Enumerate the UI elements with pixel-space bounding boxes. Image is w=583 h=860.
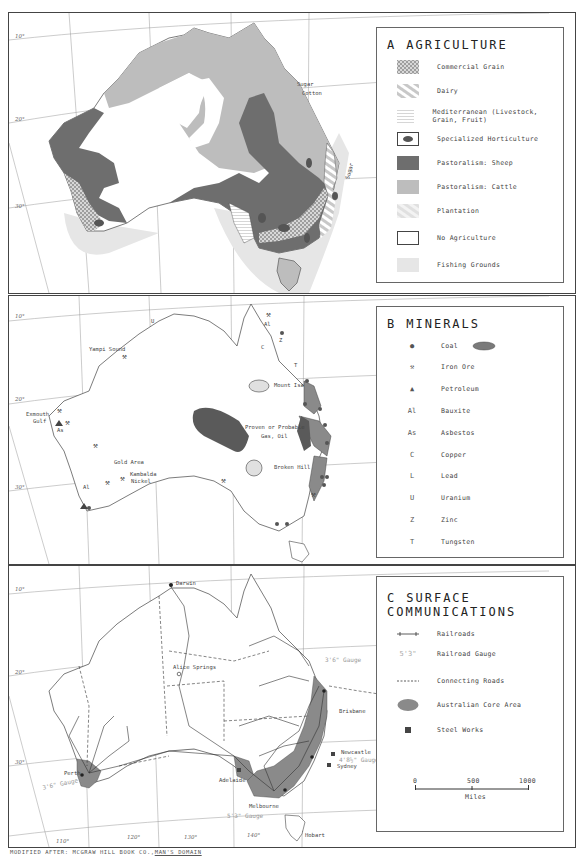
iron-ore-icon: ⚒ (122, 352, 127, 361)
legend-item-bauxite: Al Bauxite (377, 407, 471, 415)
map-label-broken-hill: Broken Hill (274, 464, 310, 470)
iron-ore-icon: ⚒ (65, 418, 70, 427)
horizontal-swatch-icon (397, 109, 414, 123)
city-label-adelaide: Adelaide (219, 777, 246, 783)
scale-bar: 0 500 1000 Miles (415, 777, 531, 807)
legend-item-cattle: Pastoralism: Cattle (377, 180, 517, 194)
legend-item-core-area: Australian Core Area (377, 698, 521, 712)
scale-tick-1000: 1000 (519, 777, 536, 785)
city-label-newcastle: Newcastle (341, 749, 371, 755)
map-label-sugar-north: Sugar (297, 81, 314, 87)
scale-tick-0: 0 (413, 777, 417, 785)
oval-swatch-icon (397, 132, 419, 146)
tungsten-symbol: T (401, 538, 423, 546)
lat-10-label-b: 10° (15, 313, 25, 319)
lat-20-label-b: 20° (15, 396, 25, 402)
map-label-as: As (57, 427, 64, 433)
coal-dot-icon: ● (401, 342, 423, 350)
map-label-z-north: Z (279, 337, 282, 343)
legend-item-copper: C Copper (377, 451, 466, 459)
steel-works-square-icon (397, 723, 419, 737)
legend-item-zinc: Z Zinc (377, 516, 458, 524)
map-label-gold-area: Gold Area (114, 459, 144, 465)
light-gray-swatch-icon (397, 180, 419, 194)
iron-ore-icon: ⚒ (266, 310, 271, 319)
legend-item-coal: ● Coal (377, 341, 496, 351)
map-label-mount-isa: Mount Isa (274, 382, 304, 388)
legend-item-commercial-grain: Commercial Grain (377, 60, 504, 74)
crosshatch-swatch-icon (397, 60, 419, 74)
dashed-line-icon (397, 674, 419, 688)
petroleum-triangle-icon: ▲ (401, 385, 423, 393)
dark-gray-swatch-icon (397, 156, 419, 170)
coal-field-oval-icon (472, 341, 496, 351)
zinc-symbol: Z (401, 516, 423, 524)
legend-item-tungsten: T Tungsten (377, 538, 475, 546)
legend-item-steel-works: Steel Works (377, 723, 483, 737)
legend-item-fishing: Fishing Grounds (377, 258, 500, 272)
lon-140-label: 140° (247, 832, 260, 838)
city-label-melbourne: Melbourne (249, 803, 279, 809)
very-light-gray-swatch-icon (397, 258, 419, 272)
legend-item-dairy: Dairy (377, 84, 458, 98)
copper-symbol: C (401, 451, 423, 459)
city-label-hobart: Hobart (305, 832, 325, 838)
source-title: MAN'S DOMAIN (155, 849, 202, 855)
city-label-sydney: Sydney (337, 763, 357, 769)
railroad-line-icon (397, 627, 419, 641)
gauge-symbol: 5'3" (397, 650, 419, 658)
plantation-swatch-icon (397, 204, 419, 218)
lat-20-label-c: 20° (15, 669, 25, 675)
minerals-panel: ⚒ ⚒ ⚒ ⚒ ⚒ ⚒ ⚒ ⚒ ⚒ 10° 20° 30° Yampi Soun… (8, 295, 576, 565)
legend-item-railroads: Railroads (377, 627, 475, 641)
lat-10-label-c: 10° (15, 586, 25, 592)
gauge-label-east: 3'6" Gauge (325, 656, 361, 663)
legend-item-horticulture: Specialized Horticulture (377, 132, 538, 146)
map-label-nickel: Nickel (131, 478, 151, 484)
iron-ore-icon: ⚒ (401, 363, 423, 371)
scale-line (415, 785, 531, 791)
lat-10-label-a: 10° (15, 33, 25, 39)
source-credit: MODIFIED AFTER: MCGRAW HILL BOOK CO.,MAN… (10, 849, 202, 855)
lat-30-label-a: 30° (15, 203, 25, 209)
legend-title-minerals: BMINERALS (387, 317, 480, 331)
asbestos-symbol: As (401, 429, 423, 437)
legend-item-petroleum: ▲ Petroleum (377, 385, 479, 393)
legend-item-uranium: U Uranium (377, 494, 471, 502)
white-swatch-icon (397, 231, 419, 245)
iron-ore-icon: ⚒ (105, 478, 110, 487)
core-oval-icon (397, 698, 419, 712)
map-label-gas-oil: Gas, Oil (261, 433, 288, 439)
lat-30-label-c: 30° (15, 759, 25, 765)
scale-tick-500: 500 (467, 777, 480, 785)
iron-ore-icon: ⚒ (120, 474, 125, 483)
city-label-darwin: Darwin (176, 580, 196, 586)
legend-item-iron-ore: ⚒ Iron Ore (377, 363, 475, 371)
legend-item-plantation: Plantation (377, 204, 479, 218)
legend-item-gauge: 5'3" Railroad Gauge (377, 650, 496, 658)
legend-item-lead: L Lead (377, 472, 458, 480)
legend-item-no-agriculture: No Agriculture (377, 231, 496, 245)
scale-unit: Miles (465, 793, 486, 801)
lat-30-label-b: 30° (15, 484, 25, 490)
agriculture-legend: AAGRICULTURE Commercial Grain Dairy Medi… (376, 27, 564, 283)
agriculture-panel: 10° 20° 30° Sugar Cotton Sugar AAGRICULT… (8, 12, 576, 294)
legend-item-asbestos: As Asbestos (377, 429, 475, 437)
iron-ore-icon: ⚒ (221, 476, 226, 485)
iron-ore-icon: ⚒ (93, 441, 98, 450)
city-label-alice-springs: Alice Springs (173, 664, 216, 670)
map-label-kambalda: Kambalda (130, 471, 157, 477)
map-label-proven: Proven or Probable (245, 424, 305, 430)
iron-ore-icon: ⚒ (57, 406, 62, 415)
map-label-al-west: Al (83, 484, 90, 490)
communications-panel: 10° 20° 30° 110° 120° 130° 140° Darwin A… (8, 565, 576, 848)
lon-110-label: 110° (56, 838, 69, 844)
city-label-perth: Perth (64, 770, 81, 776)
map-label-yampi: Yampi Sound (89, 346, 125, 352)
map-label-t-north: T (294, 362, 297, 368)
lon-120-label: 120° (127, 834, 140, 840)
map-label-exmouth-gulf: Gulf (33, 418, 46, 424)
legend-item-sheep: Pastoralism: Sheep (377, 156, 513, 170)
map-label-cotton: Cotton (302, 90, 322, 96)
city-label-brisbane: Brisbane (339, 708, 366, 714)
